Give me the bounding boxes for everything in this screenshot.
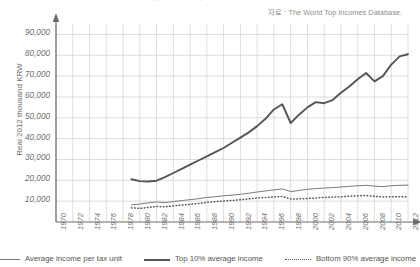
x-tick-label: 1998 <box>294 190 303 230</box>
legend-line-dotted-icon <box>285 255 311 263</box>
x-tick-label: 1976 <box>109 190 118 230</box>
y-tick-label: 80,000 <box>0 49 50 58</box>
x-tick-label: 1986 <box>193 190 202 230</box>
x-tick-label: 1978 <box>126 190 135 230</box>
x-tick-label: 2010 <box>394 190 403 230</box>
x-tick-label: 2008 <box>378 190 387 230</box>
x-tick-label: 1992 <box>244 190 253 230</box>
y-tick-label: 90,000 <box>0 28 50 37</box>
x-tick-label: 1994 <box>260 190 269 230</box>
legend-line-thin-icon <box>0 255 20 263</box>
x-tick-label: 1990 <box>227 190 236 230</box>
legend-line-thick-icon <box>144 255 170 263</box>
y-tick-label: 70,000 <box>0 70 50 79</box>
chart-legend: Average income per tax unit Top 10% aver… <box>0 254 410 263</box>
y-tick-label: 60,000 <box>0 91 50 100</box>
legend-label-average: Average income per tax unit <box>25 254 122 263</box>
x-tick-label: 1980 <box>143 190 152 230</box>
legend-item-bottom90: Bottom 90% average income <box>285 254 416 263</box>
x-tick-label: 2002 <box>327 190 336 230</box>
legend-item-top10: Top 10% average income <box>144 254 263 263</box>
plot-area: 90,00080,00070,00060,00050,00040,00030,0… <box>56 24 408 222</box>
x-tick-label: 2006 <box>361 190 370 230</box>
legend-item-average: Average income per tax unit <box>0 254 122 263</box>
y-tick-label: 30,000 <box>0 153 50 162</box>
x-tick-label: 2004 <box>344 190 353 230</box>
x-tick-label: 1988 <box>210 190 219 230</box>
y-tick-label: 10,000 <box>0 195 50 204</box>
x-tick-label: 1970 <box>59 190 68 230</box>
x-tick-label: 2000 <box>311 190 320 230</box>
x-tick-label: 1984 <box>177 190 186 230</box>
y-tick-label: 20,000 <box>0 174 50 183</box>
legend-label-top10: Top 10% average income <box>175 254 263 263</box>
x-tick-label: 1974 <box>93 190 102 230</box>
chart-title: Average income, Korea 1970-2012 <box>0 0 410 1</box>
source-note: 자료 : The World Top Incomes Database. <box>268 6 402 17</box>
x-tick-label: 1982 <box>160 190 169 230</box>
y-tick-label: 50,000 <box>0 112 50 121</box>
x-tick-label: 1972 <box>76 190 85 230</box>
legend-label-bottom90: Bottom 90% average income <box>316 254 416 263</box>
x-tick-label: 1996 <box>277 190 286 230</box>
y-tick-label: 40,000 <box>0 133 50 142</box>
x-tick-label: 2012 <box>411 190 420 230</box>
